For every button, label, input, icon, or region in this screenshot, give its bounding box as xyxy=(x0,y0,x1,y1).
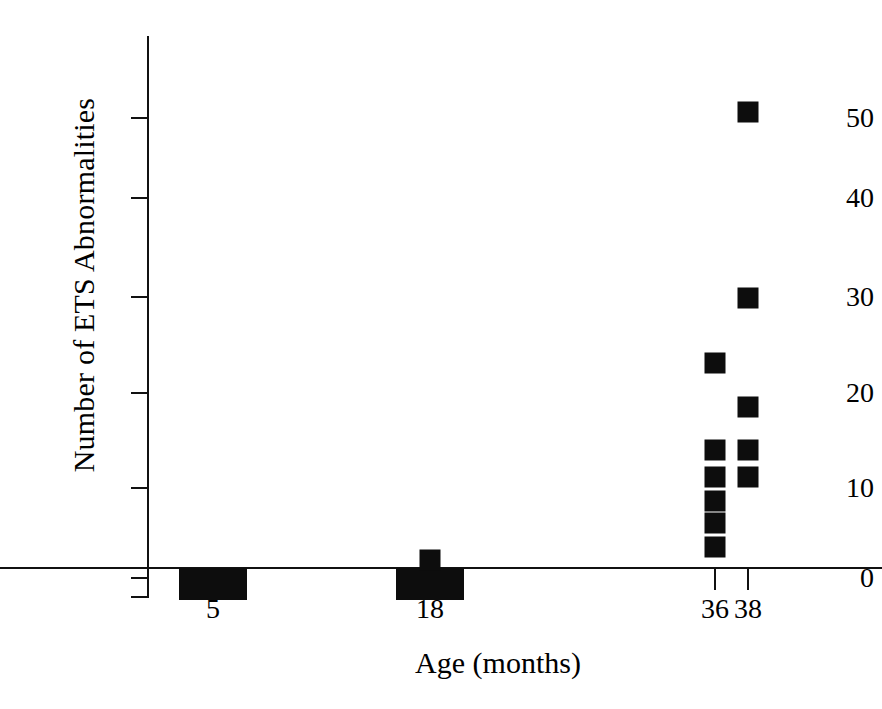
x-tick-label-38: 38 xyxy=(734,595,762,623)
y-tick-label-40: 40 xyxy=(756,184,882,212)
zero-block-18 xyxy=(396,568,464,600)
y-axis-line xyxy=(147,36,149,598)
point-38-11 xyxy=(738,467,759,488)
y-tick-40 xyxy=(131,197,147,199)
point-36-14 xyxy=(705,440,726,461)
point-18-2 xyxy=(420,550,441,571)
point-36-11 xyxy=(705,467,726,488)
y-tick-50 xyxy=(131,117,147,119)
y-tick-30 xyxy=(131,296,147,298)
point-36-23 xyxy=(705,353,726,374)
y-tick-label-10: 10 xyxy=(756,474,882,502)
x-tick-label-36: 36 xyxy=(701,595,729,623)
point-38-50 xyxy=(738,102,759,123)
y-tick-10 xyxy=(131,487,147,489)
y-tick-0 xyxy=(131,577,147,579)
y-tick-label-20: 20 xyxy=(756,379,882,407)
y-axis-label: Number of ETS Abnormalities xyxy=(56,25,112,545)
chart-figure: Number of ETS Abnormalities Age (months)… xyxy=(0,0,882,709)
x-axis-label: Age (months) xyxy=(148,648,848,678)
x-tick-36 xyxy=(714,569,716,590)
zero-block-5 xyxy=(179,568,247,600)
y-tick-20 xyxy=(131,392,147,394)
point-36-6 xyxy=(705,513,726,534)
y-tick-label-0: 0 xyxy=(756,564,882,592)
point-38-18 xyxy=(738,397,759,418)
y-tick-label-50: 50 xyxy=(756,104,882,132)
x-tick-38 xyxy=(747,569,749,590)
y-tick-label-30: 30 xyxy=(756,283,882,311)
point-38-30 xyxy=(738,288,759,309)
point-38-14 xyxy=(738,440,759,461)
point-36-3 xyxy=(705,537,726,558)
y-axis-foot-tick xyxy=(131,596,148,598)
point-36-8 xyxy=(705,491,726,512)
